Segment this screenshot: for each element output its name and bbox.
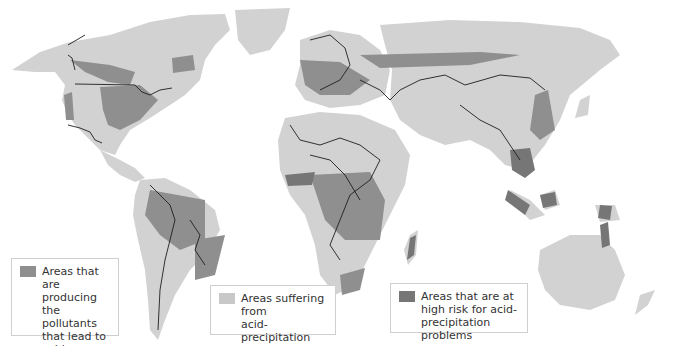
legend-suffering-acid-precipitation: Areas suffering from acid-precipitation … <box>210 285 336 335</box>
legend-producing-pollutants: Areas that are producing the pollutants … <box>11 258 119 336</box>
greenland <box>235 8 290 55</box>
central-america <box>100 150 145 182</box>
legend-label-producing: Areas that are producing the pollutants … <box>42 265 112 329</box>
producing-quebec <box>172 55 195 73</box>
risk-new-guinea <box>598 205 612 220</box>
asia <box>380 20 620 170</box>
legend-label-suffering: Areas suffering from acid-precipitation … <box>241 292 329 328</box>
legend-swatch-suffering <box>219 293 235 304</box>
new-zealand <box>635 290 655 315</box>
australia <box>538 235 625 310</box>
japan <box>575 95 590 118</box>
legend-swatch-producing <box>20 266 36 277</box>
legend-label-high-risk: Areas that are at high risk for acid- pr… <box>421 290 521 326</box>
legend-swatch-high-risk <box>399 291 415 302</box>
legend-high-risk: Areas that are at high risk for acid- pr… <box>390 283 528 333</box>
